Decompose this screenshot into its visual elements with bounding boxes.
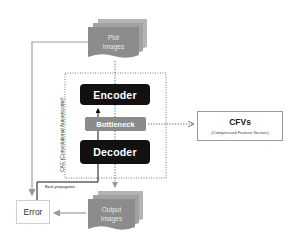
decoder-block: Decoder bbox=[80, 140, 150, 164]
plot-images-line1: Plot bbox=[108, 34, 119, 41]
plot-images-label: Plot Images bbox=[88, 33, 139, 51]
output-images-line1: Output bbox=[102, 206, 122, 213]
bottleneck-block: Bottleneck bbox=[85, 117, 146, 131]
cfv-subtitle: (Compressed Feature Vectors) bbox=[211, 130, 268, 135]
plot-images-line2: Images bbox=[103, 43, 124, 50]
cfv-title: CFVs bbox=[229, 117, 251, 127]
cae-label: CAE (Convolutional Autoencoder) bbox=[59, 97, 65, 172]
error-box: Error bbox=[16, 200, 50, 224]
encoder-block: Encoder bbox=[80, 84, 150, 105]
cfv-box: CFVs (Compressed Feature Vectors) bbox=[197, 111, 283, 141]
output-images-line2: Images bbox=[101, 215, 122, 222]
output-images-label: Output Images bbox=[88, 205, 135, 223]
backprop-label: Back-propagation bbox=[45, 185, 75, 189]
